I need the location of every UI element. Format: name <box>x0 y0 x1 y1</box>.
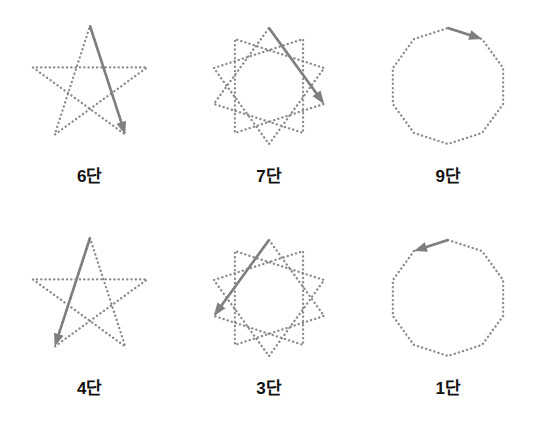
arrow-shaft <box>221 240 269 307</box>
panel-4: 3단 <box>179 212 358 424</box>
shape-decagon <box>373 8 523 166</box>
dotted-polygon-path <box>214 240 324 356</box>
panel-label-1: 7단 <box>256 168 281 185</box>
dotted-polygon-path <box>33 26 147 135</box>
shape-ten-pointed-star <box>194 8 344 166</box>
arrow-head <box>414 242 428 252</box>
panel-0: 6단 <box>0 0 179 212</box>
star-figure-5 <box>373 220 523 378</box>
arrow-shaft <box>269 28 317 95</box>
star-figure-0 <box>15 8 165 166</box>
panel-label-0: 6단 <box>77 168 102 185</box>
panel-3: 4단 <box>0 212 179 424</box>
arrow-shaft <box>58 238 90 336</box>
panel-label-4: 3단 <box>256 380 281 397</box>
diagram-grid: 6단 7단 9단 4단 3단 1단 <box>0 0 538 424</box>
panel-label-3: 4단 <box>77 380 102 397</box>
shape-pentagram <box>15 220 165 378</box>
arrow-shaft <box>425 240 448 248</box>
shape-pentagram <box>15 8 165 166</box>
arrow-head <box>468 30 482 40</box>
arrow-shaft <box>448 28 471 36</box>
arrow-head <box>214 302 226 315</box>
star-figure-4 <box>194 220 344 378</box>
arrow-head <box>312 90 324 103</box>
panel-label-2: 9단 <box>436 168 461 185</box>
arrow-shaft <box>90 26 122 124</box>
shape-ten-pointed-star <box>194 220 344 378</box>
dotted-polygon-path <box>33 238 147 347</box>
star-figure-2 <box>373 8 523 166</box>
star-figure-1 <box>194 8 344 166</box>
dotted-polygon-path <box>393 240 503 356</box>
shape-decagon <box>373 220 523 378</box>
dotted-polygon-path <box>393 28 503 144</box>
arrow-head <box>116 121 126 135</box>
panel-5: 1단 <box>359 212 538 424</box>
star-figure-3 <box>15 220 165 378</box>
panel-1: 7단 <box>179 0 358 212</box>
panel-label-5: 1단 <box>436 380 461 397</box>
dotted-polygon-path <box>214 28 324 144</box>
panel-2: 9단 <box>359 0 538 212</box>
